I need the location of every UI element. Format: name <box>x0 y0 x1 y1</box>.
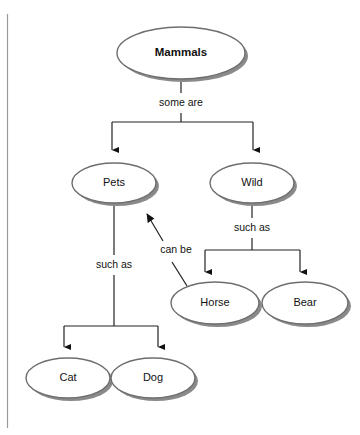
edge-label-can-be: can be <box>160 243 192 255</box>
node-dog[interactable]: Dog <box>111 358 198 401</box>
diagram-canvas: some are such as such as can be Mammals … <box>0 0 360 435</box>
node-label: Cat <box>59 371 76 383</box>
edge-label-some-are: some are <box>159 96 203 108</box>
concept-map-svg: some are such as such as can be Mammals … <box>0 0 360 435</box>
node-label: Horse <box>200 296 229 308</box>
node-horse[interactable]: Horse <box>171 282 262 327</box>
edge-label-wild-such-as: such as <box>234 221 270 233</box>
edge-pets-children <box>64 203 158 347</box>
node-label: Bear <box>293 296 317 308</box>
edge-wild-children <box>205 203 300 272</box>
node-bear[interactable]: Bear <box>262 282 351 327</box>
edge-label-pets-such-as: such as <box>96 258 132 270</box>
node-label: Dog <box>143 371 163 383</box>
node-label: Wild <box>241 176 262 188</box>
node-label: Pets <box>103 176 126 188</box>
node-cat[interactable]: Cat <box>26 358 113 401</box>
edge-mammals-children <box>112 79 253 150</box>
node-label: Mammals <box>155 46 207 58</box>
node-mammals[interactable]: Mammals <box>117 27 248 82</box>
node-wild[interactable]: Wild <box>210 163 297 206</box>
node-pets[interactable]: Pets <box>72 163 159 206</box>
